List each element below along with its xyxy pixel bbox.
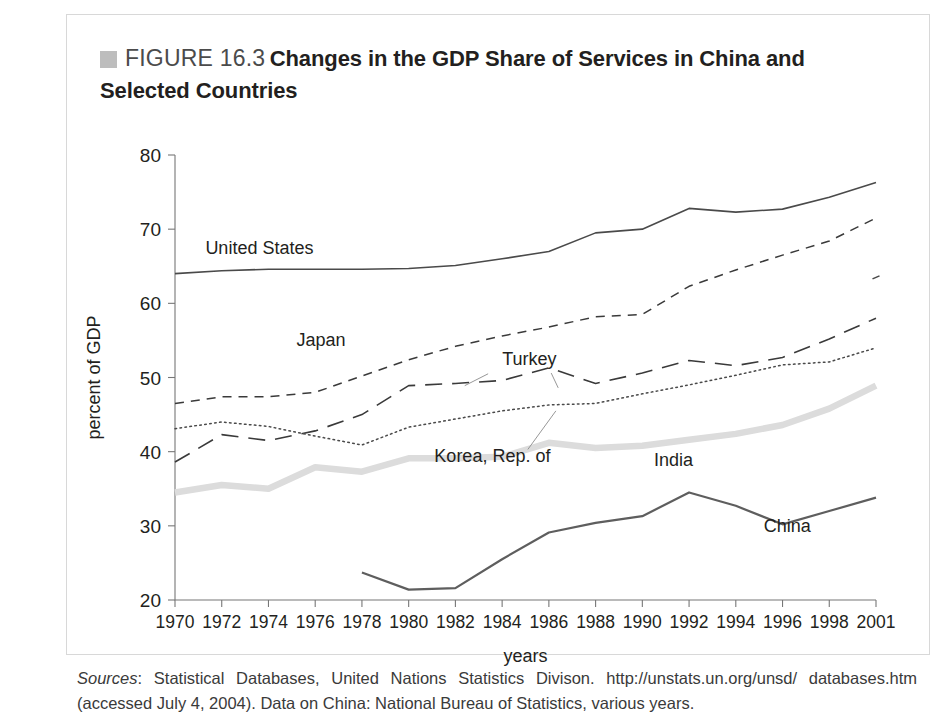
figure-frame (66, 14, 930, 655)
figure-title-line-2: Selected Countries (100, 78, 890, 104)
source-note: Sources: Statistical Databases, United N… (77, 666, 917, 716)
source-label: Sources (77, 669, 138, 687)
figure-swatch-icon (100, 51, 117, 68)
source-text: : Statistical Databases, United Nations … (77, 669, 917, 712)
figure-number: FIGURE 16.3 (125, 45, 265, 71)
figure-title-line-1: Changes in the GDP Share of Services in … (270, 46, 805, 71)
figure-title-block: FIGURE 16.3 Changes in the GDP Share of … (100, 43, 890, 104)
